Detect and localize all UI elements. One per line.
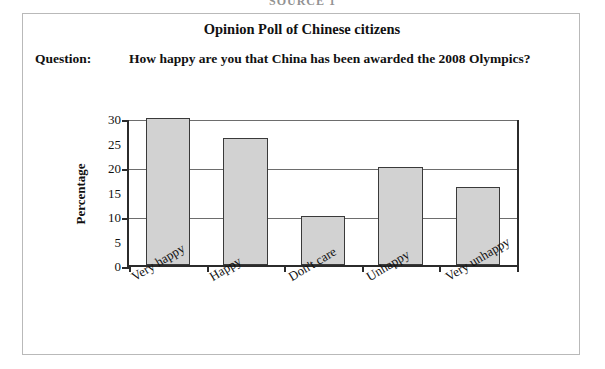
question-text: How happy are you that China has been aw… <box>129 50 539 69</box>
y-axis-tick-mark <box>122 218 129 220</box>
y-axis-tick-label: 5 <box>95 236 121 249</box>
y-axis-title: Percentage <box>72 129 90 259</box>
y-axis-tick-mark <box>122 169 129 171</box>
question-label: Question: <box>35 50 123 69</box>
y-axis-tick-label: 20 <box>95 162 121 175</box>
plot-area <box>127 120 519 267</box>
page-title: Opinion Poll of Chinese citizens <box>23 21 581 38</box>
x-axis-tick-labels: Very happyHappyDon't careUnhappyVery unh… <box>127 272 519 352</box>
source-caption: SOURCE 1 <box>0 0 605 6</box>
figure-frame: Opinion Poll of Chinese citizens Questio… <box>22 13 580 355</box>
bar-series <box>129 120 517 265</box>
y-axis-tick-label: 10 <box>95 211 121 224</box>
y-axis-tick-label: 30 <box>95 113 121 126</box>
y-axis-tick-label: 25 <box>95 138 121 151</box>
bar-slot <box>129 120 207 265</box>
x-axis-tick-mark <box>439 265 441 272</box>
bar <box>146 118 190 265</box>
y-axis-tick-label: 0 <box>95 260 121 273</box>
bar <box>223 138 267 265</box>
bar-slot <box>284 120 362 265</box>
x-axis-tick-mark <box>517 265 519 272</box>
bar-slot <box>207 120 285 265</box>
bar-slot <box>362 120 440 265</box>
y-axis-tick-mark <box>122 120 129 122</box>
bar-chart: Percentage 051015202530 Very happyHappyD… <box>23 109 581 354</box>
y-axis-tick-label: 15 <box>95 187 121 200</box>
y-axis-tick-labels: 051015202530 <box>89 120 121 267</box>
y-axis-tick-mark <box>122 267 129 269</box>
